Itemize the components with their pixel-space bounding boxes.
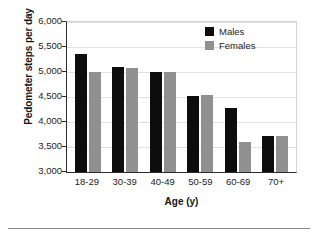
- bar-females-30-39: [126, 68, 138, 173]
- legend-item-males: Males: [205, 26, 255, 37]
- x-axis-tick-label: 18-29: [68, 176, 106, 187]
- x-axis-tick-label: 70+: [257, 176, 295, 187]
- bar-females-70+: [276, 136, 288, 172]
- y-axis-tick-mark: [62, 46, 66, 47]
- plot-area: [66, 21, 297, 173]
- bar-group: [257, 22, 295, 172]
- legend-swatch-females: [205, 41, 214, 50]
- bar-males-70+: [262, 136, 274, 173]
- bar-females-18-29: [89, 72, 101, 173]
- bar-males-18-29: [75, 54, 87, 172]
- bar-females-60-69: [239, 142, 251, 172]
- bar-males-50-59: [187, 96, 199, 173]
- chart-figure: Pedometer steps per day 3,0003,5004,0004…: [0, 0, 318, 245]
- y-axis-tick-mark: [62, 21, 66, 22]
- x-axis-tick-labels: 18-2930-3940-4950-5960-6970+: [66, 176, 297, 187]
- bottom-divider: [8, 228, 310, 229]
- bar-females-50-59: [201, 95, 213, 172]
- legend: MalesFemales: [205, 26, 255, 51]
- y-axis-tick-mark: [62, 71, 66, 72]
- bar-group: [107, 22, 145, 172]
- y-axis-tick-label: 4,000: [18, 116, 62, 126]
- y-axis-tick-label: 5,500: [18, 41, 62, 51]
- x-axis-tick-label: 60-69: [219, 176, 257, 187]
- y-axis-tick-label: 6,000: [18, 16, 62, 26]
- x-axis-tick-label: 50-59: [181, 176, 219, 187]
- bar-group: [144, 22, 182, 172]
- bar-females-40-49: [164, 72, 176, 173]
- y-axis-tick-label: 5,000: [18, 66, 62, 76]
- bar-males-40-49: [150, 72, 162, 172]
- bar-group: [69, 22, 107, 172]
- y-axis-tick-label: 4,500: [18, 91, 62, 101]
- bar-males-60-69: [225, 108, 237, 172]
- legend-item-females: Females: [205, 40, 255, 51]
- y-axis-tick-label: 3,000: [18, 166, 62, 176]
- legend-swatch-males: [205, 27, 214, 36]
- y-axis-tick-mark: [62, 121, 66, 122]
- y-axis-tick-mark: [62, 146, 66, 147]
- y-axis-tick-mark: [62, 96, 66, 97]
- legend-label: Males: [219, 26, 244, 37]
- y-axis-tick-mark: [62, 171, 66, 172]
- x-axis-title: Age (y): [66, 196, 297, 207]
- x-axis-tick-label: 40-49: [144, 176, 182, 187]
- x-axis-tick-label: 30-39: [106, 176, 144, 187]
- bar-males-30-39: [112, 67, 124, 172]
- bar-groups: [67, 22, 296, 172]
- legend-label: Females: [219, 40, 255, 51]
- y-axis-tick-label: 3,500: [18, 141, 62, 151]
